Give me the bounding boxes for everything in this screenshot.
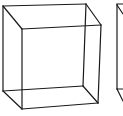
cube-edge <box>86 4 101 25</box>
cube-edge <box>3 6 22 29</box>
cube-edge <box>3 86 83 91</box>
cube-edge <box>117 89 123 101</box>
cube-edge <box>3 91 22 109</box>
cube-edge <box>117 5 123 14</box>
cube-edge <box>22 103 98 109</box>
wireframe-cube <box>3 4 101 109</box>
partial-wireframe-cube <box>117 4 123 101</box>
cube-diagram <box>0 0 123 116</box>
cube-edge <box>3 4 86 6</box>
cube-edge <box>98 25 101 103</box>
cube-edge <box>83 86 98 103</box>
cube-drawing <box>0 0 123 116</box>
cube-edge <box>83 4 86 86</box>
cube-edge <box>22 25 101 29</box>
